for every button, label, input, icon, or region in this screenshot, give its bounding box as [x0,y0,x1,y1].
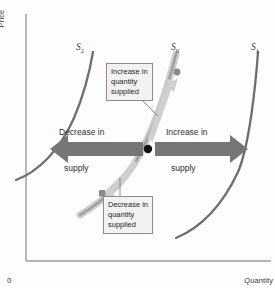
curve-label-s2: S2 [76,42,84,54]
equilibrium-point [144,145,152,153]
increase-supply-label-line2: supply [171,163,196,173]
callout-decrease-quantity-supplied: Decrease in quantity supplied [103,196,153,234]
callout-increase-line1: Increase in [111,67,148,77]
upper-point [174,69,181,76]
callout-increase-quantity-supplied: Increase in quantity supplied [106,63,153,101]
curve-label-s0: S0 [171,42,179,54]
supply-shift-diagram: Price Quantity 0 S2 S0 S1 Increase in qu… [0,0,275,288]
callout-decrease-line2: quantity [108,210,148,220]
callout-decrease-line3: supplied [108,220,148,230]
curve-label-s2-sub: 2 [81,47,84,54]
decrease-supply-label-line1: Decrease in [59,127,104,137]
decrease-supply-arrow [50,135,143,163]
y-axis-label: Price [0,10,6,28]
curve-label-s1-sub: 1 [256,47,259,54]
x-axis-label: Quantity [244,276,273,285]
curve-label-s1: S1 [251,42,259,54]
callout-increase-line2: quantity [111,77,148,87]
diagram-canvas [0,0,275,288]
movement-down-arrow [101,162,136,197]
supply-curve-s2 [16,52,93,180]
increase-supply-arrow [155,135,248,163]
callout-decrease-line1: Decrease in [108,200,148,210]
callout-increase-line3: supplied [111,87,148,97]
curve-label-s0-sub: 0 [176,47,179,54]
leader-line-increase [142,100,158,116]
decrease-supply-label-line2: supply [64,163,89,173]
increase-supply-label-line1: Increase in [166,127,208,137]
origin-label: 0 [7,276,12,285]
